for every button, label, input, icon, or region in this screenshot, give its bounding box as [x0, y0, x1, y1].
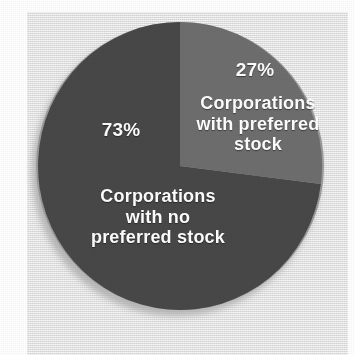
pie-slice-with-preferred-stock[interactable] [180, 22, 322, 184]
pie-chart-figure: 27% Corporations with preferred stock 73… [0, 0, 354, 355]
pie-svg [38, 22, 322, 310]
pie-chart [38, 22, 322, 310]
